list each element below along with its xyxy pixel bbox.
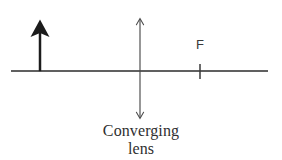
ray-diagram-figure: F Converging lens <box>0 0 282 160</box>
diagram-canvas <box>0 0 282 160</box>
focal-point-label: F <box>189 38 211 52</box>
